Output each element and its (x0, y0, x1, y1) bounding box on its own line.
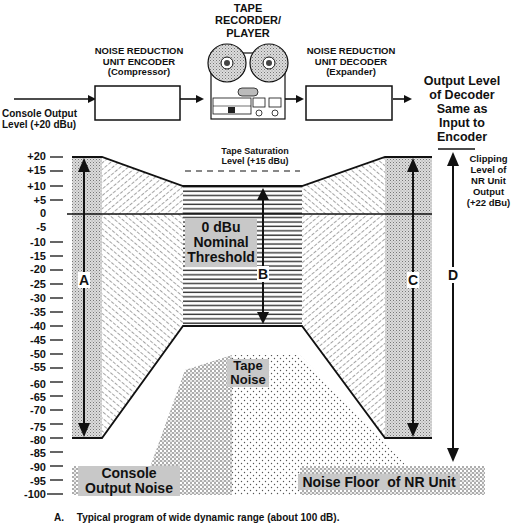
nr-noise-floor-label: Noise Floor of NR Unit (298, 474, 460, 490)
tick-label: -20 (2, 264, 46, 275)
range-a-label: A (78, 272, 90, 288)
tape-saturation-line2: Level (+15 dBu) (200, 156, 310, 166)
clipping-line4: Output (462, 186, 515, 197)
tape-noise-label: Tape Noise (227, 359, 269, 387)
tick-label: -45 (2, 335, 46, 346)
tick-label: -5 (2, 222, 46, 233)
tape-saturation-label: Tape Saturation Level (+15 dBu) (200, 146, 310, 166)
tick-label: -10 (2, 237, 46, 248)
console-noise-line2: Output Noise (78, 481, 180, 496)
caption-text: Typical program of wide dynamic range (a… (77, 512, 340, 523)
clipping-level-label: Clipping Level of NR Unit Output (+22 dB… (462, 153, 515, 208)
tape-recorder-icon (208, 44, 288, 119)
tick-label: -35 (2, 307, 46, 318)
tick-label: -70 (2, 405, 46, 416)
threshold-line3: Threshold (185, 250, 257, 265)
tick-label: +20 (2, 151, 46, 162)
range-c-label: C (407, 272, 419, 288)
tick-label: -100 (2, 489, 46, 500)
tick-label: -60 (2, 379, 46, 390)
encoder-box (95, 86, 180, 120)
range-d-label: D (447, 267, 459, 283)
tick-label: -40 (2, 321, 46, 332)
axis-ticks (47, 157, 63, 494)
tick-label: 0 (2, 208, 46, 219)
console-noise-line1: Console (78, 466, 180, 481)
tick-label: +15 (2, 165, 46, 176)
clipping-line5: (+22 dBu) (462, 197, 515, 208)
console-noise-label: Console Output Noise (78, 466, 180, 496)
tick-label: -50 (2, 349, 46, 360)
tick-label: -65 (2, 392, 46, 403)
diagram-graphics (0, 0, 515, 528)
decoder-box (306, 86, 392, 120)
tick-label: -55 (2, 362, 46, 373)
tick-label: -85 (2, 448, 46, 459)
tape-noise-line2: Noise (227, 373, 269, 387)
tick-label: -15 (2, 251, 46, 262)
tape-saturation-line1: Tape Saturation (200, 146, 310, 156)
tick-label: -80 (2, 435, 46, 446)
caption-marker: A. (54, 512, 64, 523)
clipping-line3: NR Unit (462, 175, 515, 186)
tick-label: +5 (2, 195, 46, 206)
threshold-line1: 0 dBu (185, 220, 257, 235)
tick-label: +10 (2, 181, 46, 192)
tick-label: -95 (2, 476, 46, 487)
tick-label: -25 (2, 279, 46, 290)
tick-label: -75 (2, 422, 46, 433)
range-c-shade (385, 157, 432, 438)
range-a-shade (72, 157, 102, 438)
tick-label: -30 (2, 293, 46, 304)
caption: A. Typical program of wide dynamic range… (54, 512, 339, 523)
range-b-label: B (257, 266, 269, 282)
clipping-line2: Level of (462, 164, 515, 175)
nominal-threshold-label: 0 dBu Nominal Threshold (185, 218, 257, 267)
clipping-line1: Clipping (462, 153, 515, 164)
threshold-line2: Nominal (185, 235, 257, 250)
tape-noise-line1: Tape (227, 359, 269, 373)
tick-label: -90 (2, 462, 46, 473)
